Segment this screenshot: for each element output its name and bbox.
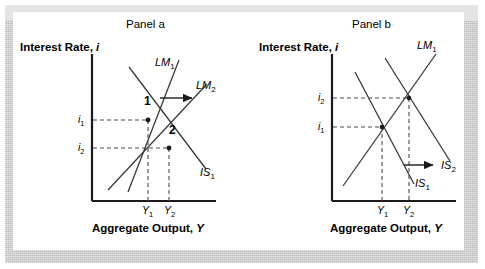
panel-a-x-tick-Y2-sub: 2 — [171, 210, 175, 219]
panel-b-y-tick-i2: i2 — [318, 92, 325, 106]
panel-b-plot — [332, 54, 456, 201]
panel-b-curve-LM1 — [343, 54, 436, 186]
panel-a-y-tick-i1-sub: 1 — [80, 119, 84, 128]
panel-b-x-axis-title-symbol: Y — [434, 222, 442, 234]
panel-a-x-axis-title-symbol: Y — [196, 222, 204, 234]
panel-a-curve-label-LM2-main: LM — [196, 79, 211, 91]
panel-a-y-tick-i1: i1 — [78, 114, 85, 128]
panel-b-x-tick-Y2: Y2 — [403, 205, 414, 219]
panel-a-y-axis-title: Interest Rate, i — [20, 42, 99, 54]
panel-a-x-tick-Y1-main: Y — [142, 204, 149, 216]
panel-b-x-axis-title-text: Aggregate Output, — [330, 222, 434, 234]
panel-a-x-tick-Y1-sub: 1 — [149, 210, 153, 219]
panel-b-y-axis-title-symbol: i — [335, 41, 338, 53]
panel-b-x-tick-Y2-sub: 2 — [410, 210, 414, 219]
panel-b-curve-label-IS2-main: IS — [441, 159, 451, 171]
panel-a-point-label-2: 2 — [169, 124, 176, 136]
panel-a-plot — [92, 54, 216, 201]
panel-b-curve-label-IS1-main: IS — [415, 177, 425, 189]
panel-b-y-tick-i2-sub: 2 — [320, 97, 324, 106]
panel-a-curve-IS1 — [129, 67, 206, 169]
panel-b-curve-IS2 — [385, 58, 450, 161]
panel-a-equilibrium-dot-2 — [167, 146, 172, 151]
panel-a-y-tick-i2-sub: 2 — [80, 147, 84, 156]
panel-b-x-tick-Y1: Y1 — [377, 205, 388, 219]
panel-b-equilibrium-dot-1 — [380, 125, 385, 130]
panel-b-y-axis-title-text: Interest Rate, — [259, 41, 335, 53]
panel-a-curve-label-LM1-sub: 1 — [170, 62, 174, 71]
panel-b-y-tick-i1-sub: 1 — [320, 126, 324, 135]
panel-b-equilibrium-dot-2 — [407, 96, 412, 101]
panel-a-curve-label-LM2: LM2 — [196, 80, 216, 94]
panel-a-x-tick-Y1: Y1 — [142, 205, 153, 219]
figure-root: Panel a Interest Rate, i Aggregate Outpu… — [0, 0, 485, 269]
panel-a-x-axis-title-text: Aggregate Output, — [92, 222, 196, 234]
panel-a-curve-label-IS1-sub: 1 — [210, 172, 214, 181]
panel-a-point-label-1: 1 — [144, 95, 151, 107]
panel-b-x-axis-title: Aggregate Output, Y — [330, 223, 442, 235]
panel-b-x-tick-Y1-main: Y — [377, 204, 384, 216]
panel-a-curve-label-IS1-main: IS — [200, 166, 210, 178]
panel-b-x-tick-Y1-sub: 1 — [384, 210, 388, 219]
panel-a-title: Panel a — [126, 19, 165, 31]
panel-b-title: Panel b — [352, 19, 391, 31]
panel-a-curve-LM2 — [108, 84, 207, 190]
panel-b-y-axis-title: Interest Rate, i — [259, 42, 338, 54]
panel-a-x-tick-Y2: Y2 — [164, 205, 175, 219]
panel-a-curve-label-LM2-sub: 2 — [211, 85, 215, 94]
panel-a-y-tick-i2: i2 — [78, 142, 85, 156]
panel-b-x-tick-Y2-main: Y — [403, 204, 410, 216]
panel-b-curve-label-LM1: LM1 — [417, 40, 437, 54]
panel-a-x-axis-title: Aggregate Output, Y — [92, 223, 204, 235]
panel-a-curve-label-LM1: LM1 — [155, 57, 175, 71]
panel-b-y-tick-i1: i1 — [318, 121, 325, 135]
panel-a-y-axis-title-text: Interest Rate, — [20, 41, 96, 53]
panel-a-curve-label-LM1-main: LM — [155, 56, 170, 68]
panel-b-curve-label-LM1-main: LM — [417, 39, 432, 51]
panel-a-x-tick-Y2-main: Y — [164, 204, 171, 216]
panel-b-curve-label-IS1-sub: 1 — [425, 183, 429, 192]
panel-b-curve-label-IS2-sub: 2 — [451, 165, 455, 174]
panel-b-curve-label-IS1: IS1 — [415, 178, 430, 192]
panel-a-curve-label-IS1: IS1 — [200, 167, 215, 181]
panel-b-curve-label-LM1-sub: 1 — [432, 45, 436, 54]
panel-a-y-axis-title-symbol: i — [96, 41, 99, 53]
panel-a-equilibrium-dot-1 — [146, 118, 151, 123]
panel-b-curve-label-IS2: IS2 — [441, 160, 456, 174]
